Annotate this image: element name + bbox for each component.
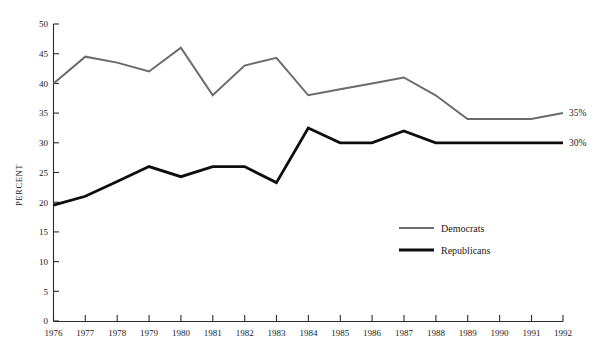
y-tick-label-50: 50 [39,19,49,29]
y-tick-label-5: 5 [44,287,49,297]
x-tick-label-1977: 1977 [76,328,95,338]
x-tick-label-1980: 1980 [172,328,191,338]
y-axis-ticks [54,24,60,321]
x-tick-label-1978: 1978 [108,328,127,338]
chart-legend: Democrats Republicans [399,223,491,256]
x-tick-label-1989: 1989 [459,328,478,338]
x-tick-label-1988: 1988 [427,328,446,338]
y-tick-label-10: 10 [39,257,49,267]
x-tick-label-1987: 1987 [395,328,414,338]
y-tick-label-30: 30 [39,138,49,148]
y-tick-label-0: 0 [44,316,49,326]
series-line-democrats [54,48,564,119]
x-tick-label-1985: 1985 [331,328,350,338]
chart-page: 0 5 10 15 20 25 30 35 40 45 50 PERCENT [0,0,606,354]
line-chart: 0 5 10 15 20 25 30 35 40 45 50 PERCENT [0,0,606,354]
y-axis-title: PERCENT [14,164,24,206]
y-tick-label-15: 15 [39,227,49,237]
x-tick-label-1986: 1986 [363,328,382,338]
legend-label-republicans: Republicans [441,245,491,256]
legend-label-democrats: Democrats [441,223,484,234]
y-tick-label-45: 45 [39,49,49,59]
x-tick-label-1979: 1979 [140,328,159,338]
x-tick-label-1990: 1990 [491,328,510,338]
y-tick-label-25: 25 [39,168,49,178]
x-tick-label-1976: 1976 [45,328,64,338]
x-tick-label-1984: 1984 [299,328,318,338]
x-tick-label-1982: 1982 [236,328,254,338]
x-tick-label-1983: 1983 [268,328,287,338]
end-label-republicans: 30% [569,138,587,148]
series-line-republicans [54,128,564,205]
x-tick-label-1981: 1981 [204,328,222,338]
x-tick-label-1991: 1991 [523,328,541,338]
y-tick-label-35: 35 [39,108,49,118]
y-tick-label-20: 20 [39,198,49,208]
y-axis-tick-labels: 0 5 10 15 20 25 30 35 40 45 50 [39,19,49,326]
y-tick-label-40: 40 [39,79,49,89]
x-tick-label-1992: 1992 [554,328,572,338]
end-label-democrats: 35% [569,108,587,118]
x-axis-tick-labels: 1976 1977 1978 1979 1980 1981 1982 1983 … [45,328,573,338]
x-axis-ticks [54,315,564,322]
